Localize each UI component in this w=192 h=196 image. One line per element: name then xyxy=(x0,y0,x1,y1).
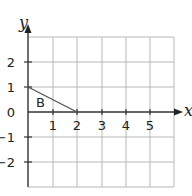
x-axis-arrow-icon xyxy=(174,109,183,116)
coordinate-grid: y x 2 1 0 −1 −2 1 2 3 4 5 B xyxy=(0,0,192,196)
y-tick-label: 0 xyxy=(7,105,15,120)
x-axis-label: x xyxy=(184,101,192,120)
x-tick-label: 4 xyxy=(122,118,130,133)
y-axis-label: y xyxy=(18,13,29,32)
x-tick-label: 5 xyxy=(146,118,154,133)
y-tick-label: 1 xyxy=(7,80,15,95)
x-tick-label: 3 xyxy=(98,118,106,133)
x-tick-label: 2 xyxy=(73,118,81,133)
y-tick-label: −2 xyxy=(0,155,15,170)
y-tick-label: −1 xyxy=(0,130,15,145)
region-label: B xyxy=(36,95,45,110)
y-tick-label: 2 xyxy=(7,55,15,70)
x-tick-label: 1 xyxy=(49,118,57,133)
